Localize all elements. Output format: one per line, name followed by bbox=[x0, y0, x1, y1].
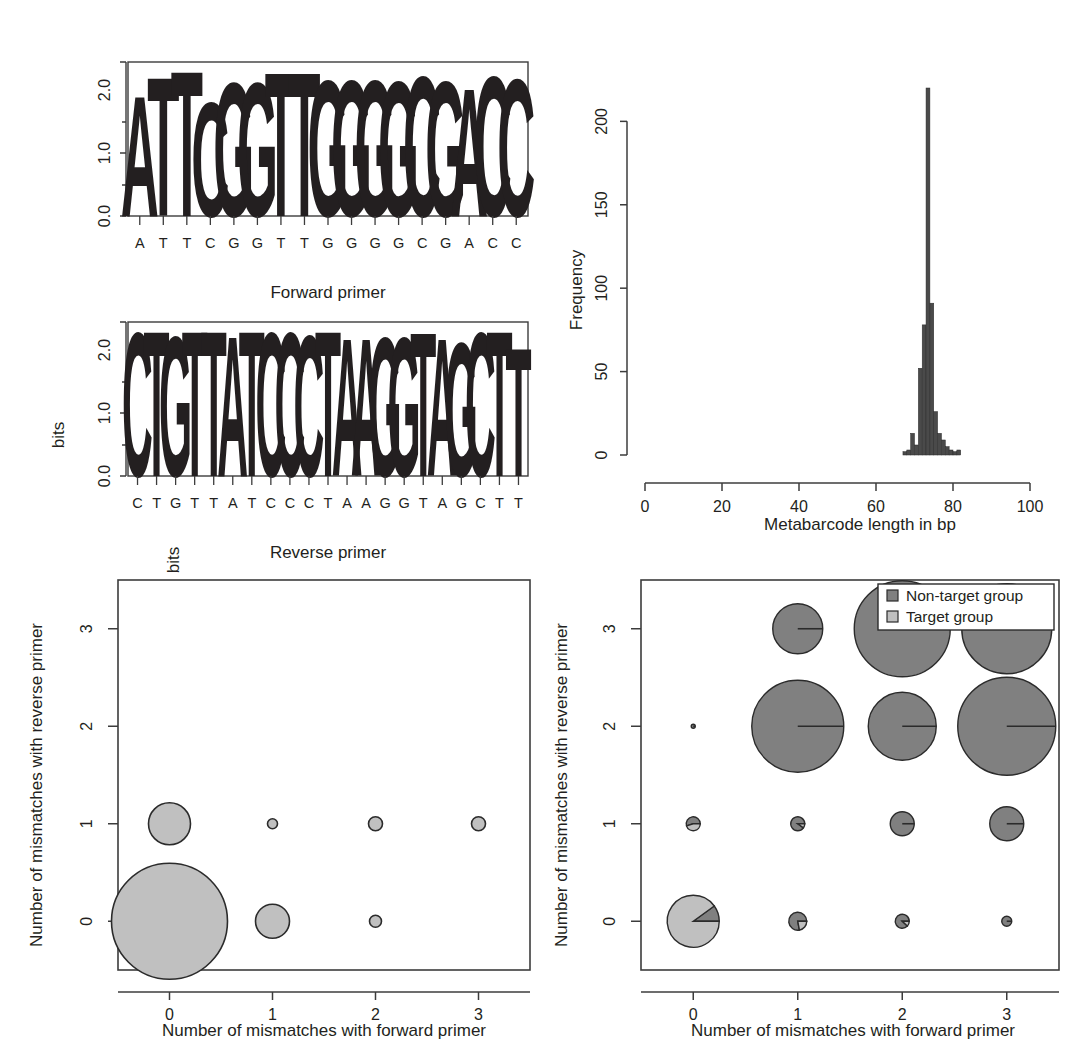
histogram-bar bbox=[907, 450, 911, 455]
logo-x-tick-label: T bbox=[159, 235, 168, 251]
pie-plot-y-tick-label: 2 bbox=[601, 722, 618, 731]
logo-x-tick-label: C bbox=[487, 235, 497, 251]
pie-point bbox=[868, 692, 936, 760]
bubble-point bbox=[369, 817, 383, 831]
pie-point bbox=[667, 895, 719, 947]
logo-x-tick-label: C bbox=[511, 235, 521, 251]
forward-primer-logo-svg: bits 0.0 1.0 2.0 ATTCGGTTGGGGCGACC ATTCG… bbox=[40, 40, 540, 310]
histogram-bar bbox=[903, 452, 907, 455]
histogram-bar bbox=[945, 447, 949, 455]
histogram-x-tick-label: 60 bbox=[867, 498, 885, 515]
bubble-point bbox=[149, 803, 191, 845]
legend-swatch bbox=[887, 611, 898, 622]
bubble-plot-y-tick-labels: 0123 bbox=[78, 624, 95, 926]
logo-x-tick-label: T bbox=[514, 495, 523, 511]
pie-plot-ylabel: Number of mismatches with reverse primer bbox=[552, 623, 571, 947]
histogram-svg: Frequency 050100150200 020406080100 Meta… bbox=[560, 40, 1080, 570]
pie-plot-x-axis bbox=[641, 992, 1059, 1000]
logo-x-tick-label: G bbox=[393, 235, 404, 251]
logo-x-tick-label: G bbox=[369, 235, 380, 251]
logo-x-tick-label: C bbox=[475, 495, 485, 511]
logo-x-tick-label: T bbox=[182, 235, 191, 251]
pie-point bbox=[1002, 916, 1012, 926]
histogram-x-tick-label: 0 bbox=[641, 498, 650, 515]
reverse-primer-logo-panel: bits 0.0 1.0 2.0 CTGTTATCCCTAAGGTAGCTT C… bbox=[40, 300, 540, 570]
histogram-bar bbox=[926, 88, 930, 455]
logo-x-tick-label: T bbox=[324, 495, 333, 511]
reverse-logo-x-ticks bbox=[138, 476, 519, 485]
logo-x-tick-label: G bbox=[456, 495, 467, 511]
bubble-plot-points bbox=[112, 803, 486, 980]
histogram-xlabel: Metabarcode length in bp bbox=[764, 515, 956, 534]
histogram-y-tick-label: 50 bbox=[593, 363, 610, 381]
pie-slice-target bbox=[687, 824, 701, 831]
pie-point bbox=[691, 724, 695, 728]
pie-point bbox=[791, 817, 805, 831]
reverse-logo-x-tick-labels: CTGTTATCCCTAAGGTAGCTT bbox=[132, 495, 523, 511]
pie-point bbox=[890, 812, 914, 836]
histogram-y-tick-label: 200 bbox=[593, 108, 610, 135]
pie-plot-y-tick-labels: 0123 bbox=[601, 624, 618, 926]
histogram-x-tick-label: 20 bbox=[713, 498, 731, 515]
histogram-bar bbox=[949, 450, 953, 455]
reverse-primer-logo-svg: bits 0.0 1.0 2.0 CTGTTATCCCTAAGGTAGCTT C… bbox=[40, 300, 540, 570]
histogram-y-tick-label: 150 bbox=[593, 191, 610, 218]
pie-plot-y-tick-label: 3 bbox=[601, 624, 618, 633]
pie-plot-xlabel: Number of mismatches with forward primer bbox=[691, 1021, 1015, 1040]
histogram-bars bbox=[903, 88, 961, 455]
logo-x-tick-label: A bbox=[135, 235, 145, 251]
histogram-y-tick-label: 100 bbox=[593, 275, 610, 302]
logo-x-tick-label: C bbox=[205, 235, 215, 251]
pie-point bbox=[752, 680, 844, 772]
bubble-plot-y-tick-label: 2 bbox=[78, 722, 95, 731]
logo-x-tick-label: A bbox=[464, 235, 474, 251]
logo-x-tick-label: C bbox=[304, 495, 314, 511]
pie-point bbox=[686, 817, 700, 831]
logo-x-tick-label: G bbox=[170, 495, 181, 511]
bubble-point bbox=[112, 863, 228, 979]
bubble-plot-y-ticks bbox=[108, 629, 118, 922]
logo-x-tick-label: C bbox=[266, 495, 276, 511]
bubble-plot-y-tick-label: 3 bbox=[78, 624, 95, 633]
pie-plot-y-tick-label: 1 bbox=[601, 819, 618, 828]
bubble-plot-y-tick-label: 1 bbox=[78, 819, 95, 828]
histogram-bar bbox=[938, 433, 942, 455]
bubble-plot-ylabel: Number of mismatches with reverse primer bbox=[27, 623, 46, 947]
logo-x-tick-label: A bbox=[228, 495, 238, 511]
bubble-plot-x-axis bbox=[118, 992, 530, 1000]
histogram-x-axis bbox=[645, 483, 1030, 491]
reverse-logo-y-axis: bits 0.0 1.0 2.0 bbox=[49, 322, 126, 487]
reverse-logo-ytick-2: 2.0 bbox=[96, 339, 113, 361]
legend-label: Target group bbox=[906, 608, 993, 625]
all-taxa-mismatch-pie-plot-panel: Number of mismatches with reverse primer… bbox=[545, 570, 1080, 1048]
histogram-x-tick-label: 80 bbox=[944, 498, 962, 515]
bubble-point bbox=[472, 817, 486, 831]
pie-point bbox=[958, 677, 1056, 775]
reverse-logo-letters: CTGTTATCCCTAAGGTAGCTT bbox=[122, 288, 531, 521]
histogram-bar bbox=[934, 412, 938, 455]
histogram-bar bbox=[957, 450, 961, 455]
histogram-y-axis bbox=[620, 121, 627, 455]
legend-swatch bbox=[887, 590, 898, 601]
logo-x-tick-label: C bbox=[285, 495, 295, 511]
pie-point bbox=[773, 604, 823, 654]
histogram-bar bbox=[918, 368, 922, 455]
logo-x-tick-label: G bbox=[346, 235, 357, 251]
logo-x-tick-label: G bbox=[322, 235, 333, 251]
logo-x-tick-label: G bbox=[440, 235, 451, 251]
histogram-y-tick-labels: 050100150200 bbox=[593, 108, 610, 460]
histogram-bar bbox=[922, 325, 926, 455]
pie-plot-points bbox=[667, 581, 1056, 948]
logo-x-tick-label: T bbox=[152, 495, 161, 511]
logo-x-tick-label: T bbox=[300, 235, 309, 251]
logo-x-tick-label: G bbox=[399, 495, 410, 511]
forward-logo-ytick-0: 0.0 bbox=[96, 205, 113, 227]
metabarcode-length-histogram-panel: Frequency 050100150200 020406080100 Meta… bbox=[560, 40, 1080, 570]
forward-primer-logo-panel: bits 0.0 1.0 2.0 ATTCGGTTGGGGCGACC ATTCG… bbox=[40, 40, 540, 310]
histogram-bar bbox=[930, 303, 934, 455]
pie-plot-svg: Number of mismatches with reverse primer… bbox=[545, 570, 1080, 1048]
histogram-bar bbox=[953, 452, 957, 455]
pie-point bbox=[990, 807, 1024, 841]
bubble-plot-svg: Number of mismatches with reverse primer… bbox=[20, 570, 545, 1048]
legend-label: Non-target group bbox=[906, 587, 1023, 604]
